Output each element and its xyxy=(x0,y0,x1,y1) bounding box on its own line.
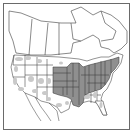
canada-provinces xyxy=(9,7,127,55)
north-america-map xyxy=(4,4,130,130)
usa-states xyxy=(11,53,123,115)
map-frame xyxy=(3,3,130,130)
